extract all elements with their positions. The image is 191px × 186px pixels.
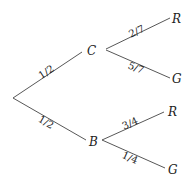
prob-c-g: 5/7	[126, 60, 145, 76]
tree-diagram: 1/2 C 2/7 R 5/7 G 1/2 B 3/4 R 1/4 G	[0, 0, 191, 186]
prob-c-r: 2/7	[127, 23, 146, 40]
prob-root-b: 1/2	[36, 113, 55, 131]
prob-b-r: 3/4	[120, 115, 139, 132]
prob-root-c: 1/2	[36, 63, 55, 81]
node-b-g: G	[168, 163, 178, 177]
node-b-r: R	[167, 105, 177, 119]
prob-b-g: 1/4	[120, 149, 139, 166]
node-b: B	[88, 135, 98, 149]
node-c-r: R	[171, 12, 181, 26]
node-c: C	[87, 44, 96, 58]
node-c-g: G	[172, 72, 182, 86]
